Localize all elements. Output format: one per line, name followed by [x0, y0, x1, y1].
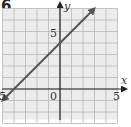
y-tick-label-5: 5 — [50, 27, 57, 40]
x-tick-label-5: 5 — [113, 90, 120, 103]
x-tick-label-neg5: 5 — [0, 90, 6, 103]
x-tick-label-0: 0 — [50, 90, 57, 103]
x-axis-label: x — [121, 74, 128, 87]
y-axis-label: y — [63, 0, 71, 13]
coordinate-plane: x y 5 0 5 5 — [0, 0, 131, 127]
